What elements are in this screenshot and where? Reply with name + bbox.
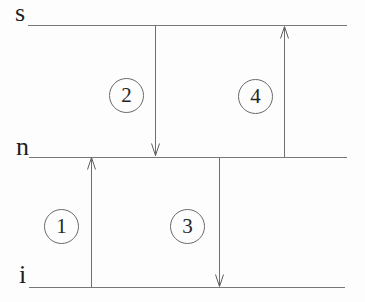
transition-2-arrow-shaft	[155, 26, 156, 156]
level-line-n	[29, 157, 347, 158]
transition-4-number: 4	[250, 84, 261, 109]
level-label-i: i	[19, 262, 26, 288]
transition-3-number: 3	[182, 214, 193, 239]
level-label-n: n	[16, 134, 29, 160]
arrowhead-up-icon	[279, 26, 290, 39]
transition-3-badge: 3	[170, 209, 205, 244]
level-label-s: s	[15, 0, 25, 26]
arrowhead-down-icon	[150, 143, 161, 156]
transition-1-badge: 1	[44, 209, 79, 244]
arrowhead-up-icon	[86, 157, 97, 170]
transition-4-arrow-shaft	[284, 27, 285, 157]
level-line-s	[28, 25, 347, 26]
transition-2-number: 2	[121, 83, 132, 108]
transition-1-arrow-shaft	[91, 158, 92, 287]
transition-2-badge: 2	[109, 78, 144, 113]
arrowhead-down-icon	[214, 274, 225, 287]
transition-3-arrow-shaft	[219, 158, 220, 286]
level-line-i	[29, 287, 345, 288]
level-transition-diagram: s n i 1 2 3 4	[0, 0, 365, 302]
transition-1-number: 1	[56, 214, 67, 239]
transition-4-badge: 4	[238, 79, 273, 114]
